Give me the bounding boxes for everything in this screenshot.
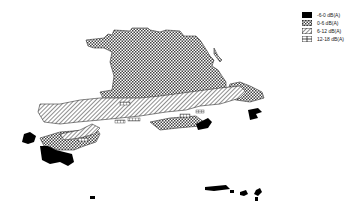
legend-item-6-12: 6-12 dB(A)	[302, 27, 360, 35]
checker-swatch-icon	[302, 20, 312, 26]
legend-label: -6-0 dB(A)	[317, 11, 340, 19]
legend-label: 12-18 dB(A)	[317, 35, 344, 43]
legend-item-neg6-0: -6-0 dB(A)	[302, 11, 360, 19]
legend-label: 6-12 dB(A)	[317, 27, 341, 35]
map-legend: -6-0 dB(A) 0-6 dB(A) 6-12 dB(A) 12-18 dB…	[302, 11, 360, 43]
grid-swatch-icon	[302, 36, 312, 42]
hatch-swatch-icon	[302, 28, 312, 34]
legend-label: 0-6 dB(A)	[317, 19, 338, 27]
legend-item-12-18: 12-18 dB(A)	[302, 35, 360, 43]
solid-swatch-icon	[302, 12, 312, 18]
legend-item-0-6: 0-6 dB(A)	[302, 19, 360, 27]
